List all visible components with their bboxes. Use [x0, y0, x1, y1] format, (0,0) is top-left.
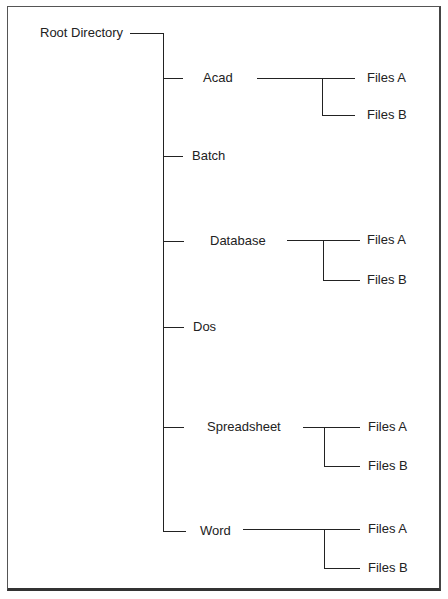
spreadsheet-stub	[163, 427, 184, 428]
acad-connector	[257, 78, 355, 79]
database-files-a: Files A	[367, 232, 406, 248]
node-batch: Batch	[192, 148, 225, 164]
acad-filesb-connector	[322, 115, 355, 116]
root-directory-label: Root Directory	[40, 25, 123, 41]
word-files-a: Files A	[368, 521, 407, 537]
spreadsheet-connector	[303, 427, 360, 428]
word-branch	[324, 529, 325, 568]
root-connector	[130, 33, 163, 34]
trunk-line	[163, 33, 164, 531]
word-connector	[243, 529, 360, 530]
acad-stub	[163, 78, 183, 79]
node-spreadsheet: Spreadsheet	[207, 419, 281, 435]
acad-files-b: Files B	[367, 107, 407, 123]
database-files-b: Files B	[367, 272, 407, 288]
spreadsheet-filesb-connector	[324, 466, 360, 467]
dos-stub	[163, 327, 184, 328]
acad-branch	[322, 78, 323, 115]
database-branch	[323, 240, 324, 280]
node-word: Word	[200, 523, 231, 539]
batch-stub	[163, 156, 183, 157]
node-acad: Acad	[203, 70, 233, 86]
word-stub	[163, 531, 186, 532]
database-filesb-connector	[323, 280, 360, 281]
spreadsheet-files-b: Files B	[368, 458, 408, 474]
word-files-b: Files B	[368, 560, 408, 576]
database-stub	[163, 241, 184, 242]
node-dos: Dos	[193, 319, 216, 335]
spreadsheet-files-a: Files A	[368, 419, 407, 435]
node-database: Database	[210, 233, 266, 249]
acad-files-a: Files A	[367, 70, 406, 86]
diagram-frame	[7, 6, 441, 591]
word-filesb-connector	[324, 568, 360, 569]
spreadsheet-branch	[324, 427, 325, 466]
